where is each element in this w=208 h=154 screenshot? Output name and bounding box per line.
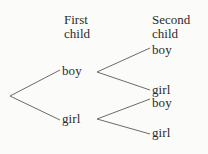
node-first-child-boy: boy — [62, 64, 82, 77]
edge-boy-to-girl — [97, 72, 150, 90]
edge-girl-to-boy — [97, 99, 150, 119]
edge-girl-to-girl — [97, 119, 150, 134]
column-header-first-child-line1: First — [64, 13, 90, 27]
column-header-second-child: Second child — [152, 13, 190, 41]
edge-root-to-boy — [10, 70, 60, 96]
tree-diagram: First child Second child boy girl boy gi… — [0, 0, 208, 154]
node-second-child-boy-boy: boy — [152, 43, 172, 56]
node-second-child-girl-boy: boy — [152, 96, 172, 109]
edge-root-to-girl — [10, 96, 60, 120]
node-first-child-girl: girl — [62, 112, 80, 125]
column-header-second-child-line2: child — [152, 27, 190, 41]
column-header-first-child-line2: child — [64, 27, 90, 41]
column-header-second-child-line1: Second — [152, 13, 190, 27]
edge-boy-to-boy — [97, 48, 150, 72]
column-header-first-child: First child — [64, 13, 90, 41]
node-second-child-girl-girl: girl — [152, 126, 170, 139]
